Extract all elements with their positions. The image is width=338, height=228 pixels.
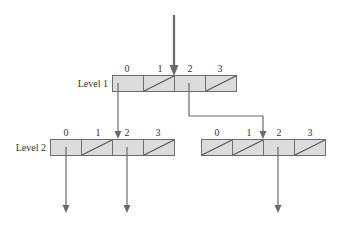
table-cell-pointer <box>113 76 144 92</box>
diagram-canvas: Level 1 0 1 2 3 Level 2 0 1 2 3 <box>0 0 338 228</box>
pointer-arrow-l2-right-2 <box>275 147 282 213</box>
index-label: 3 <box>156 127 161 138</box>
level-2-label: Level 2 <box>16 142 46 153</box>
level-2-left-index-labels: 0 1 2 3 <box>64 127 161 138</box>
index-label: 1 <box>247 127 252 138</box>
index-label: 1 <box>96 127 101 138</box>
table-cell-pointer <box>264 140 295 156</box>
level-2-right-table <box>202 140 326 156</box>
pointer-arrow-l2-left-2 <box>124 147 131 213</box>
index-label: 3 <box>308 127 313 138</box>
level-1-table <box>113 76 237 92</box>
index-label: 2 <box>277 127 282 138</box>
table-cell-pointer <box>113 140 144 156</box>
pointer-arrow-l2-left-0 <box>63 147 70 213</box>
index-label: 0 <box>125 63 130 74</box>
index-label: 0 <box>64 127 69 138</box>
index-label: 1 <box>158 63 163 74</box>
index-label: 3 <box>218 63 223 74</box>
table-cell-pointer <box>175 76 206 92</box>
index-label: 0 <box>215 127 220 138</box>
level-2-left-table <box>51 140 175 156</box>
level-1-label: Level 1 <box>78 78 108 89</box>
index-label: 2 <box>188 63 193 74</box>
index-label: 2 <box>125 127 130 138</box>
entry-arrow <box>170 15 179 76</box>
